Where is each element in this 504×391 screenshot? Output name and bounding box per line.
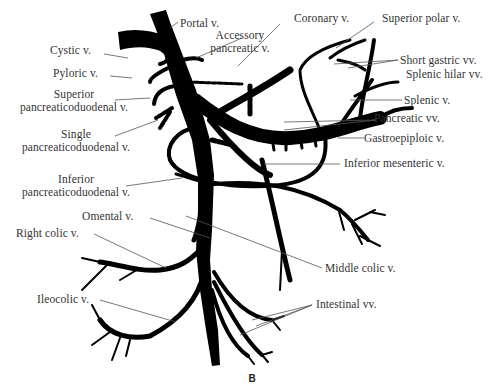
intestinal-veins — [212, 272, 284, 364]
pyloric-vein — [150, 68, 168, 82]
label-line-1: Inferior — [10, 173, 142, 186]
single-pancreaticoduodenal-vein — [156, 108, 172, 128]
label-superior-pancreaticoduodenal-vein: Superior pancreaticoduodenal v. — [8, 88, 140, 114]
label-intestinal-veins: Intestinal vv. — [316, 298, 377, 311]
superior-pancreaticoduodenal-vein — [154, 86, 175, 104]
splenic-vein — [188, 40, 412, 175]
label-splenic-hilar-veins: Splenic hilar vv. — [406, 68, 483, 81]
label-right-colic-vein: Right colic v. — [16, 227, 79, 240]
label-line-1: Single — [10, 128, 142, 141]
cystic-vein — [160, 50, 168, 64]
label-accessory-pancreatic-vein: Accessory pancreatic v. — [200, 29, 280, 55]
inferior-mesenteric-vein — [262, 160, 290, 280]
label-line-2: pancreaticoduodenal v. — [10, 141, 142, 154]
label-splenic-vein: Splenic v. — [404, 94, 450, 107]
label-line-1: Accessory — [200, 29, 280, 42]
label-middle-colic-vein: Middle colic v. — [325, 262, 396, 275]
panel-label: B — [0, 373, 504, 384]
label-single-pancreaticoduodenal-vein: Single pancreaticoduodenal v. — [10, 128, 142, 154]
label-line-2: pancreatic v. — [200, 42, 280, 55]
label-cystic-vein: Cystic v. — [50, 44, 91, 57]
label-pancreatic-veins: Pancreatic vv. — [374, 112, 440, 125]
ileocolic-vein — [100, 270, 205, 337]
label-line-2: pancreaticoduodenal v. — [10, 186, 142, 199]
label-inferior-mesenteric-vein: Inferior mesenteric v. — [344, 157, 445, 170]
superior-mesenteric-vein — [196, 175, 220, 366]
label-ileocolic-vein: Ileocolic v. — [37, 293, 89, 306]
middle-colic-vein — [214, 183, 368, 240]
accessory-pancreatic-vein — [182, 59, 202, 61]
label-coronary-vein: Coronary v. — [294, 12, 349, 25]
label-line-2: pancreaticoduodenal v. — [8, 101, 140, 114]
label-omental-vein: Omental v. — [82, 210, 133, 223]
label-pyloric-vein: Pyloric v. — [53, 67, 98, 80]
label-gastroepiploic-vein: Gastroepiploic v. — [364, 132, 444, 145]
label-inferior-pancreaticoduodenal-vein: Inferior pancreaticoduodenal v. — [10, 173, 142, 199]
label-superior-polar-vein: Superior polar v. — [382, 12, 461, 25]
label-short-gastric-veins: Short gastric vv. — [400, 54, 477, 67]
label-line-1: Superior — [8, 88, 140, 101]
